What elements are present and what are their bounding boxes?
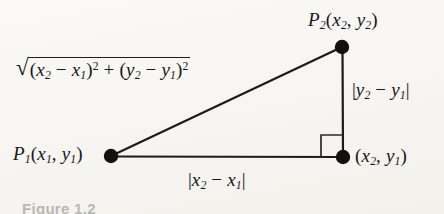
vertex-dot-lower-left [104, 149, 118, 163]
h-t2-a: y [126, 59, 135, 80]
p1-comma: , [52, 143, 62, 164]
dy-minus: − [370, 79, 391, 100]
dx-minus: − [206, 169, 227, 190]
h-t1-minus: − [51, 59, 72, 80]
h-t2-power: 2 [182, 59, 188, 72]
corner-paren-close: ) [401, 145, 408, 166]
vertex-dot-upper-right [335, 40, 349, 54]
p1-name: P [13, 143, 25, 164]
figure-caption: Figure 1.2 [22, 200, 96, 214]
radical-icon: √ [16, 56, 29, 79]
label-vertical-leg: |y2 − y1| [352, 80, 410, 102]
distance-formula-figure: P2(x2, y2) √(x2 − x1)2 + (y2 − y1)2 |y2 … [0, 0, 444, 214]
corner-x: x [362, 145, 371, 166]
p2-paren-close: ) [371, 9, 378, 30]
h-t2-minus: − [141, 59, 162, 80]
p1-paren-close: ) [76, 143, 83, 164]
dy-b: y [391, 79, 400, 100]
radicand-expression: (x2 − x1)2 + (y2 − y1)2 [28, 57, 191, 82]
p2-name: P [308, 9, 320, 30]
h-t2-b: y [161, 59, 170, 80]
corner-y: y [386, 145, 395, 166]
corner-comma: , [376, 145, 386, 166]
vertex-dot-lower-right [336, 150, 350, 164]
h-t1-a: x [36, 59, 45, 80]
dy-bar-close: | [406, 79, 410, 100]
label-point-p1: P1(x1, y1) [13, 144, 83, 166]
dx-bar-close: | [242, 169, 246, 190]
label-point-corner: (x2, y1) [355, 146, 407, 168]
horizontal-leg-line [111, 157, 343, 158]
p2-x: x [332, 9, 341, 30]
label-point-p2: P2(x2, y2) [308, 10, 378, 32]
p1-x: x [37, 143, 46, 164]
dx-b: x [227, 169, 236, 190]
label-horizontal-leg: |x2 − x1| [188, 170, 246, 192]
p2-comma: , [347, 9, 357, 30]
vertical-leg-line [343, 47, 344, 157]
label-hypotenuse-distance: √(x2 − x1)2 + (y2 − y1)2 [16, 57, 190, 82]
h-plus: + [99, 59, 120, 80]
